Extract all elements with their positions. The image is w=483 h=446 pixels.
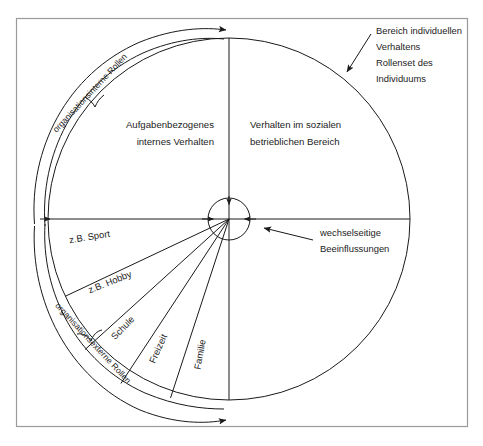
callout-individual-line4: Individuums (376, 73, 426, 84)
quadrant-top-left-line1: Aufgabenbezogenes (126, 119, 214, 130)
segment-label-freizeit: Freizeit (147, 332, 170, 365)
quadrant-top-left-line2: internes Verhalten (137, 136, 214, 147)
segment-label-sport: z.B. Sport (68, 228, 111, 245)
quadrant-top-right-line2: betrieblichen Bereich (250, 136, 340, 147)
segment-divider-schule-freizeit (121, 219, 229, 384)
callout-individual-line2: Verhaltens (376, 41, 421, 52)
callout-center-line2: Beeinflussungen (320, 243, 389, 254)
diagram-svg: Aufgabenbezogenes internes Verhalten Ver… (0, 0, 483, 446)
segment-label-schule: Schule (109, 313, 137, 341)
callout-individual-line3: Rollenset des (376, 57, 433, 68)
callout-center-line1: wechselseitige (319, 227, 381, 238)
callout-center-leader-line (264, 228, 313, 240)
segment-label-hobby: z.B. Hobby (86, 268, 133, 295)
bracket-label-external: organisationsexterne Rollen (53, 301, 133, 386)
bracket-arc-internal-inner (45, 38, 224, 226)
callout-individual-line1: Bereich individuellen (376, 25, 462, 36)
bracket-label-internal: organisationsinterne Rollen (51, 51, 129, 134)
callout-individual-leader-line (347, 34, 371, 72)
quadrant-top-right-line1: Verhalten im sozialen (250, 119, 341, 130)
diagram-canvas: Aufgabenbezogenes internes Verhalten Ver… (0, 0, 483, 446)
segment-label-familie: Familie (192, 339, 208, 371)
